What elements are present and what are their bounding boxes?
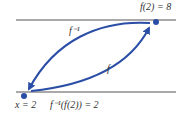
forward-arrow-label: f [107, 63, 110, 74]
composition-label: f⁻¹(f(2)) = 2 [50, 99, 99, 110]
top-point [153, 19, 159, 25]
top-point-label: f(2) = 8 [140, 1, 171, 12]
bottom-point-label: x = 2 [15, 99, 36, 110]
inverse-arrow-label: f⁻¹ [69, 25, 80, 36]
inverse-function-diagram [0, 0, 182, 115]
